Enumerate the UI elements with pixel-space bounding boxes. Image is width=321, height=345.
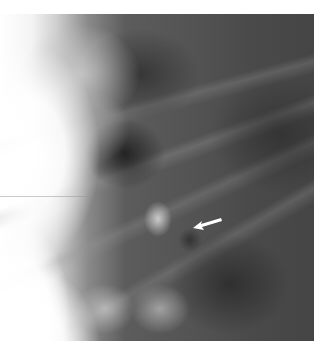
diaphragm-density [0,14,314,341]
artifact-line [0,196,90,197]
xray-image [0,14,314,341]
arrow-icon [193,216,223,232]
